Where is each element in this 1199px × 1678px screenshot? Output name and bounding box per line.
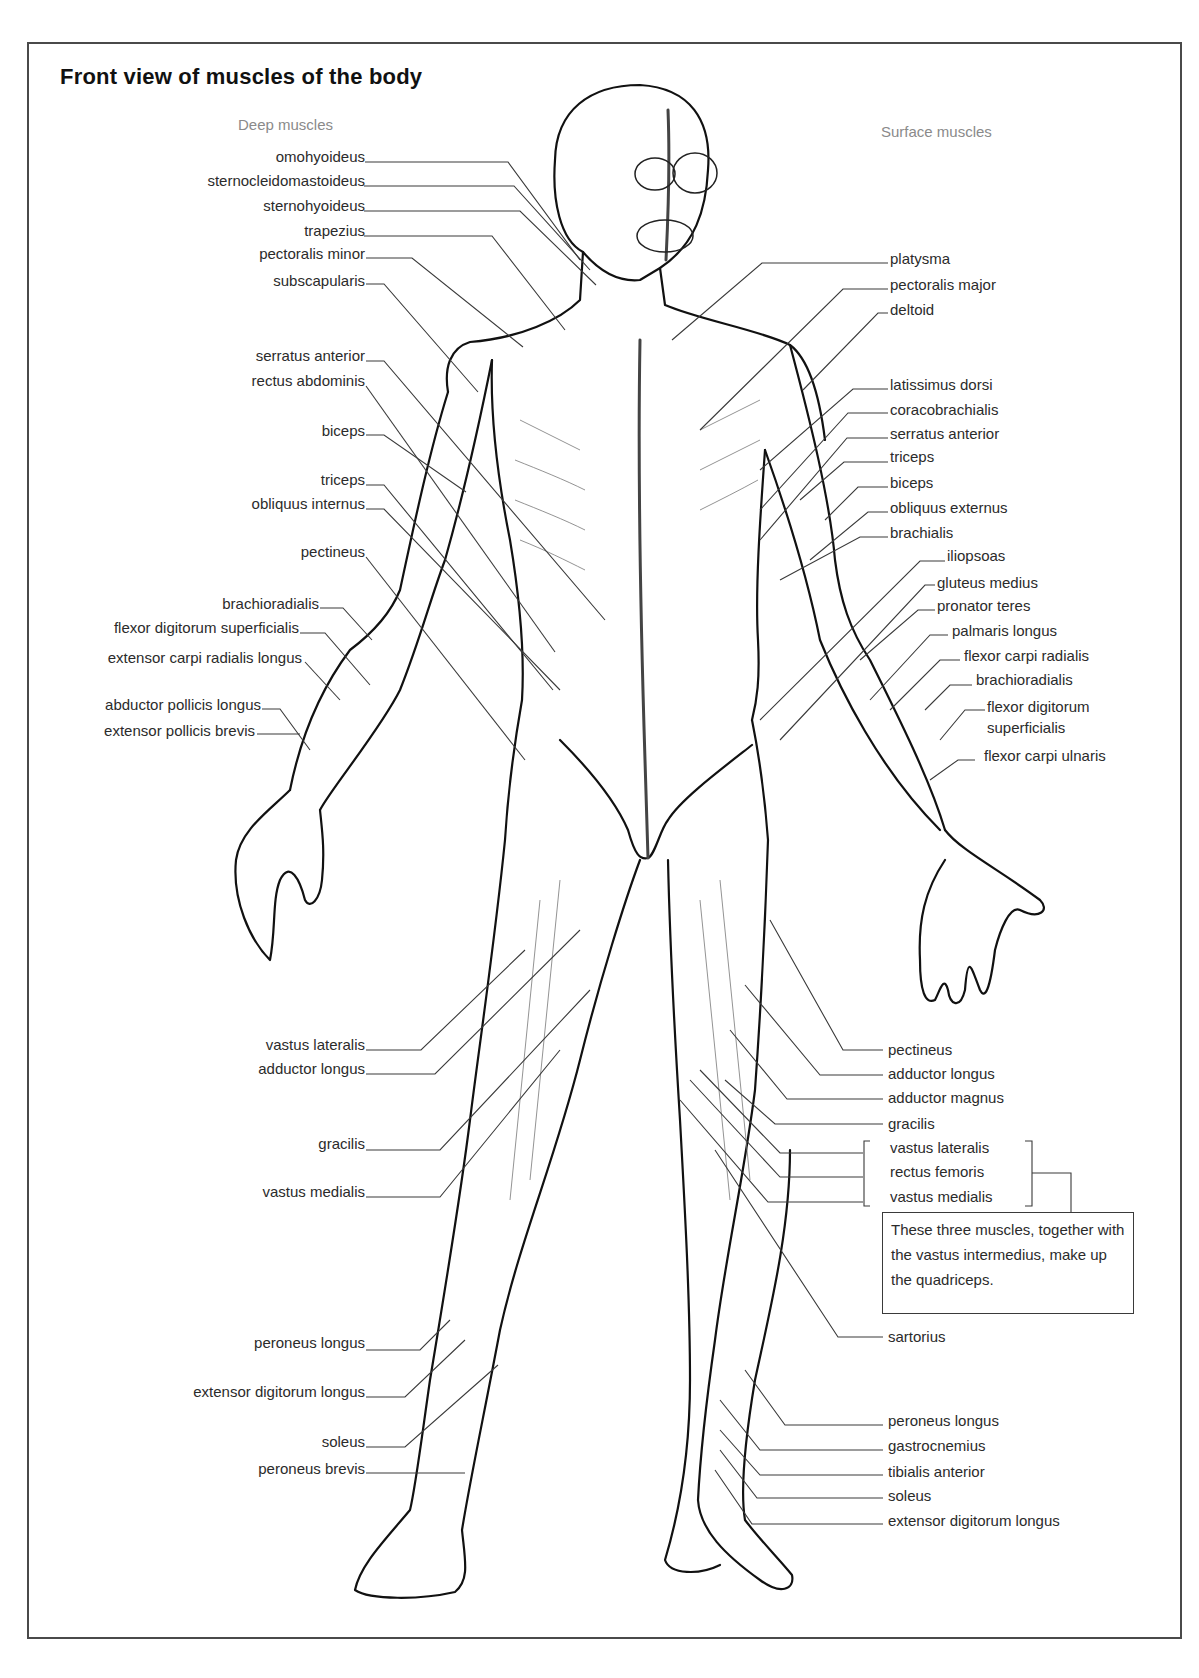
- deep-label-abductor-pollicis-longus: abductor pollicis longus: [105, 696, 261, 714]
- surface-label-vastus-medialis: vastus medialis: [890, 1188, 993, 1206]
- deep-label-rectus-abdominis: rectus abdominis: [252, 372, 365, 390]
- deep-label-pectoralis-minor: pectoralis minor: [259, 245, 365, 263]
- deep-label-peroneus-longus: peroneus longus: [254, 1334, 365, 1352]
- surface-label-vastus-lateralis: vastus lateralis: [890, 1139, 989, 1157]
- surface-label-biceps: biceps: [890, 474, 933, 492]
- deep-label-pectineus: pectineus: [301, 543, 365, 561]
- surface-label-pectineus: pectineus: [888, 1041, 952, 1059]
- deep-label-adductor-longus: adductor longus: [258, 1060, 365, 1078]
- deep-label-sternocleidomastoideus: sternocleidomastoideus: [207, 172, 365, 190]
- quadriceps-note-box: These three muscles, together with the v…: [882, 1212, 1134, 1314]
- surface-label-brachialis: brachialis: [890, 524, 953, 542]
- surface-label-adductor-longus: adductor longus: [888, 1065, 995, 1083]
- surface-label-deltoid: deltoid: [890, 301, 934, 319]
- deep-label-brachioradialis: brachioradialis: [222, 595, 319, 613]
- surface-label-soleus: soleus: [888, 1487, 931, 1505]
- deep-label-extensor-pollicis-brevis: extensor pollicis brevis: [104, 722, 255, 740]
- surface-label-tibialis-anterior: tibialis anterior: [888, 1463, 985, 1481]
- surface-label-serratus-anterior: serratus anterior: [890, 425, 999, 443]
- surface-label-gracilis: gracilis: [888, 1115, 935, 1133]
- deep-label-peroneus-brevis: peroneus brevis: [258, 1460, 365, 1478]
- surface-label-coracobrachialis: coracobrachialis: [890, 401, 998, 419]
- surface-label-platysma: platysma: [890, 250, 950, 268]
- surface-label-adductor-magnus: adductor magnus: [888, 1089, 1004, 1107]
- surface-label-gluteus-medius: gluteus medius: [937, 574, 1038, 592]
- deep-label-gracilis: gracilis: [318, 1135, 365, 1153]
- surface-label-pronator-teres: pronator teres: [937, 597, 1030, 615]
- deep-label-omohyoideus: omohyoideus: [276, 148, 365, 166]
- deep-label-serratus-anterior: serratus anterior: [256, 347, 365, 365]
- muscle-striations: [510, 400, 760, 1200]
- surface-label-flexor-carpi-radialis: flexor carpi radialis: [964, 647, 1089, 665]
- deep-label-vastus-medialis: vastus medialis: [262, 1183, 365, 1201]
- deep-label-biceps: biceps: [322, 422, 365, 440]
- deep-label-subscapularis: subscapularis: [273, 272, 365, 290]
- surface-label-brachioradialis: brachioradialis: [976, 671, 1073, 689]
- surface-leader-lines: [672, 263, 1071, 1524]
- deep-label-flexor-digitorum-superficialis: flexor digitorum superficialis: [114, 619, 299, 637]
- deep-label-trapezius: trapezius: [304, 222, 365, 240]
- deep-label-sternohyoideus: sternohyoideus: [263, 197, 365, 215]
- surface-label-latissimus-dorsi: latissimus dorsi: [890, 376, 993, 394]
- surface-label-sartorius: sartorius: [888, 1328, 946, 1346]
- surface-label-palmaris-longus: palmaris longus: [952, 622, 1057, 640]
- surface-label-peroneus-longus: peroneus longus: [888, 1412, 999, 1430]
- surface-label-flexor-digitorum-superficialis: flexor digitorum superficialis: [987, 696, 1137, 738]
- surface-label-obliquus-externus: obliquus externus: [890, 499, 1008, 517]
- deep-label-extensor-digitorum-longus: extensor digitorum longus: [193, 1383, 365, 1401]
- surface-label-rectus-femoris: rectus femoris: [890, 1163, 984, 1181]
- surface-label-extensor-digitorum-longus: extensor digitorum longus: [888, 1512, 1060, 1530]
- deep-label-soleus: soleus: [322, 1433, 365, 1451]
- surface-label-pectoralis-major: pectoralis major: [890, 276, 996, 294]
- head-outline: [554, 85, 708, 280]
- surface-label-flexor-carpi-ulnaris: flexor carpi ulnaris: [984, 747, 1106, 765]
- body-figure: [0, 0, 1199, 1678]
- deep-label-obliquus-internus: obliquus internus: [252, 495, 365, 513]
- surface-label-iliopsoas: iliopsoas: [947, 547, 1005, 565]
- deep-label-vastus-lateralis: vastus lateralis: [266, 1036, 365, 1054]
- deep-label-triceps: triceps: [321, 471, 365, 489]
- surface-label-gastrocnemius: gastrocnemius: [888, 1437, 986, 1455]
- surface-label-triceps: triceps: [890, 448, 934, 466]
- deep-label-extensor-carpi-radialis-longus: extensor carpi radialis longus: [108, 649, 302, 667]
